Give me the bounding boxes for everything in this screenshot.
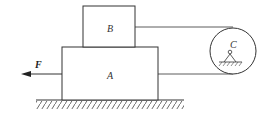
block-a-label: A (106, 70, 114, 81)
arrow-left-icon (21, 71, 31, 77)
pulley-c: C (210, 28, 256, 74)
force-label: F (34, 59, 42, 70)
block-b: B (83, 6, 135, 47)
ground (36, 100, 184, 109)
mechanics-diagram: A B C F (0, 0, 266, 120)
diagram-canvas: A B C F (0, 0, 266, 120)
block-a: A (62, 47, 158, 100)
force-f: F (21, 59, 62, 77)
pulley-label: C (230, 39, 237, 50)
block-b-label: B (107, 23, 113, 34)
